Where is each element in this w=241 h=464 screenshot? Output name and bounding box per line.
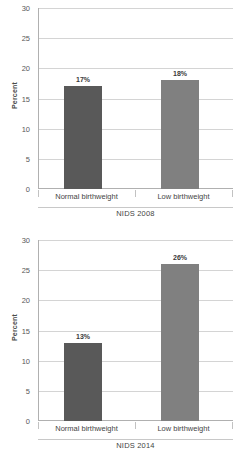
x-category-label: Low birthweight	[135, 424, 232, 433]
plot-area: 13% 26%	[38, 240, 233, 421]
category-box-bottom-border	[38, 439, 233, 440]
bar[interactable]	[161, 80, 199, 189]
y-axis-tick-labels: 30 25 20 15 10 5 0	[0, 8, 34, 189]
y-tick-label: 20	[22, 296, 30, 305]
y-tick-label: 5	[26, 386, 30, 395]
bar-value-label: 18%	[161, 70, 199, 77]
y-tick-label: 5	[26, 154, 30, 163]
bars-group: 17% 18%	[38, 8, 233, 189]
y-tick-label: 10	[22, 356, 30, 365]
bars-group: 13% 26%	[38, 240, 233, 421]
x-category-label: Normal birthweight	[38, 192, 135, 201]
y-tick-label: 15	[22, 326, 30, 335]
bar[interactable]	[161, 264, 199, 421]
bar-group-normal-birthweight: 13%	[64, 240, 102, 421]
chart-nids-2008: Percent 30 25 20 15 10 5 0 17%	[0, 0, 241, 232]
category-divider	[232, 422, 233, 429]
y-tick-label: 25	[22, 34, 30, 43]
chart-title: NIDS 2014	[38, 441, 233, 450]
y-tick-label: 25	[22, 266, 30, 275]
bar-value-label: 17%	[64, 76, 102, 83]
bar-group-low-birthweight: 26%	[161, 240, 199, 421]
x-axis-category-labels: Normal birthweight Low birthweight	[38, 422, 233, 440]
chart-title: NIDS 2008	[38, 209, 233, 218]
y-tick-label: 20	[22, 64, 30, 73]
y-tick-label: 30	[22, 4, 30, 13]
plot-area: 17% 18%	[38, 8, 233, 189]
x-axis-category-labels: Normal birthweight Low birthweight	[38, 190, 233, 208]
bar-value-label: 13%	[64, 333, 102, 340]
y-tick-label: 30	[22, 236, 30, 245]
chart-page: Percent 30 25 20 15 10 5 0 17%	[0, 0, 241, 464]
x-category-label: Low birthweight	[135, 192, 232, 201]
bar[interactable]	[64, 343, 102, 422]
chart-nids-2014: Percent 30 25 20 15 10 5 0 13%	[0, 232, 241, 464]
bar-group-normal-birthweight: 17%	[64, 8, 102, 189]
category-box-bottom-border	[38, 207, 233, 208]
y-tick-label: 10	[22, 124, 30, 133]
bar-group-low-birthweight: 18%	[161, 8, 199, 189]
y-tick-label: 0	[26, 185, 30, 194]
category-divider	[232, 190, 233, 197]
y-tick-label: 0	[26, 417, 30, 426]
y-tick-label: 15	[22, 94, 30, 103]
y-axis-tick-labels: 30 25 20 15 10 5 0	[0, 240, 34, 421]
bar[interactable]	[64, 86, 102, 189]
x-category-label: Normal birthweight	[38, 424, 135, 433]
bar-value-label: 26%	[161, 254, 199, 261]
